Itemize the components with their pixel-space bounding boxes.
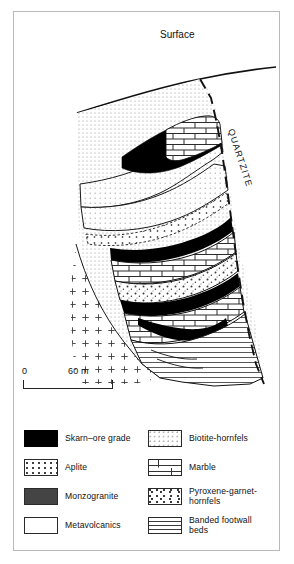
legend-label-aplite: Aplite	[65, 463, 87, 473]
quartzite-label: QUARTZITE	[226, 128, 254, 189]
legend-label-marble: Marble	[189, 463, 216, 473]
legend-swatch-biotite-hornfels	[148, 430, 182, 447]
legend-swatch-monzogranite	[24, 488, 58, 505]
scale-max-label: 60 m	[68, 366, 89, 376]
legend-item-monzogranite: Monzogranite	[24, 482, 148, 511]
legend-item-biotite-hornfels: Biotite-hornfels	[148, 424, 272, 453]
surface-label: Surface	[160, 29, 195, 40]
legend-item-banded-footwall-beds: Banded footwall beds	[148, 511, 272, 540]
legend-label-monzogranite: Monzogranite	[65, 492, 118, 502]
figure-page: QUARTZITE Surface 0 60 m Skarn–ore grade…	[0, 0, 294, 564]
legend-item-pyroxene-garnet-hornfels: Pyroxene-garnet- hornfels	[148, 482, 272, 511]
scale-zero-label: 0	[22, 366, 27, 376]
legend-label-banded-footwall-beds: Banded footwall beds	[189, 516, 272, 535]
legend-swatch-banded-footwall-beds	[148, 517, 182, 534]
legend-item-metavolcanics: Metavolcanics	[24, 511, 148, 540]
legend-label-pyroxene-garnet-hornfels: Pyroxene-garnet- hornfels	[189, 487, 257, 506]
legend-swatch-metavolcanics	[24, 517, 58, 534]
legend-label-biotite-hornfels: Biotite-hornfels	[189, 434, 248, 444]
legend-label-skarn-ore-grade: Skarn–ore grade	[65, 434, 131, 444]
legend-label-metavolcanics: Metavolcanics	[65, 521, 121, 531]
cross-section: QUARTZITE Surface	[14, 12, 279, 402]
legend-swatch-aplite	[24, 459, 58, 476]
legend-item-aplite: Aplite	[24, 453, 148, 482]
scale-bar: 0 60 m	[22, 366, 132, 400]
legend-column-right: Biotite-hornfels Marble Pyroxene-garnet-…	[148, 424, 272, 540]
legend-swatch-marble	[148, 459, 182, 476]
legend-swatch-pyroxene-garnet-hornfels	[148, 488, 182, 505]
legend-item-marble: Marble	[148, 453, 272, 482]
cross-section-svg: QUARTZITE Surface	[14, 12, 279, 402]
legend-item-skarn-ore-grade: Skarn–ore grade	[24, 424, 148, 453]
legend-column-left: Skarn–ore grade Aplite Monzogranite Meta…	[24, 424, 148, 540]
scale-bracket	[23, 380, 113, 389]
legend: Skarn–ore grade Aplite Monzogranite Meta…	[24, 424, 272, 542]
legend-swatch-skarn-ore-grade	[24, 430, 58, 447]
